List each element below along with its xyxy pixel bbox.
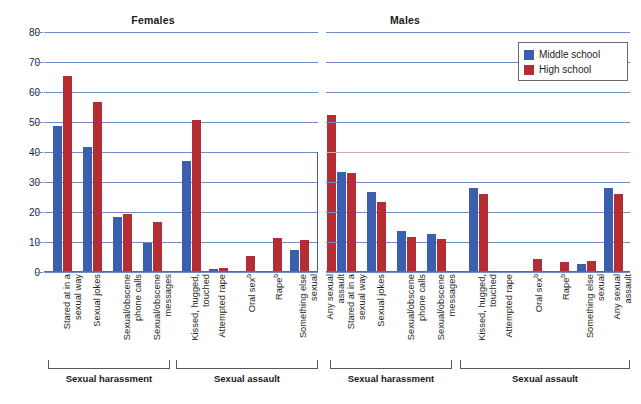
- bar-group: [112, 32, 142, 272]
- bar-group: [396, 32, 426, 272]
- category-label: Sexual jokes: [92, 274, 103, 358]
- category-label: Rapeb: [558, 274, 572, 358]
- bar-group: [208, 32, 235, 272]
- bar-high-school: [192, 120, 201, 272]
- legend-swatch-high-school: [524, 65, 534, 75]
- bar-high-school: [123, 214, 132, 272]
- y-axis-tick-mark: [36, 122, 43, 123]
- bar-group: [289, 32, 316, 272]
- x-axis-baseline: [44, 271, 318, 272]
- category-label: Oral sexb: [531, 274, 545, 358]
- category-label: Attempted rape: [217, 274, 228, 358]
- bar-middle-school: [604, 188, 613, 272]
- bar-group: [366, 32, 396, 272]
- legend-item-high-school: High school: [524, 62, 622, 77]
- y-axis-tick-mark: [36, 182, 43, 183]
- group-bracket: [330, 360, 452, 369]
- bar-group: [181, 32, 208, 272]
- panel-title-males: Males: [360, 14, 450, 26]
- y-axis-tick-mark: [36, 92, 43, 93]
- group-bracket-label: Sexual assault: [460, 373, 630, 384]
- plot-area-females: [44, 32, 318, 272]
- category-label: Sexual/obscenephone calls: [406, 274, 427, 358]
- category-label: Oral sexb: [244, 274, 258, 358]
- panel-separator: [318, 30, 326, 274]
- group-bracket: [460, 360, 630, 369]
- category-label: Something elsesexual: [585, 274, 606, 358]
- group-bracket: [48, 360, 170, 369]
- gridline-0: [44, 272, 318, 273]
- legend-label-middle-school: Middle school: [539, 49, 600, 60]
- bar-middle-school: [182, 161, 191, 272]
- bar-high-school: [63, 76, 72, 272]
- bar-high-school: [437, 239, 446, 272]
- bar-middle-school: [469, 188, 478, 272]
- bar-middle-school: [337, 172, 346, 273]
- y-axis-tick-mark: [36, 152, 43, 153]
- group-bracket-label: Sexual harassment: [48, 373, 170, 384]
- category-label: Sexual jokes: [376, 274, 387, 358]
- y-axis-tick-mark: [36, 242, 43, 243]
- category-label: Kissed, hugged,touched: [190, 274, 211, 358]
- y-axis-tick-mark: [36, 272, 43, 273]
- bar-high-school: [479, 194, 488, 272]
- gridline-0: [326, 272, 630, 273]
- x-axis-baseline: [326, 271, 630, 272]
- bar-middle-school: [367, 192, 376, 272]
- bar-middle-school: [427, 234, 436, 272]
- group-bracket-label: Sexual assault: [176, 373, 318, 384]
- bar-group: [336, 32, 366, 272]
- bar-group: [235, 32, 262, 272]
- bar-high-school: [377, 202, 386, 272]
- group-bracket-label: Sexual harassment: [330, 373, 452, 384]
- legend: Middle school High school: [518, 42, 628, 81]
- category-label: Any sexualassault: [612, 274, 633, 358]
- category-label: Rapeb: [271, 274, 285, 358]
- bar-group: [426, 32, 456, 272]
- category-labels-females: Stared at in asexual waySexual jokesSexu…: [44, 274, 318, 358]
- chart-figure: Females Males 01020304050607080 Stared a…: [0, 0, 641, 404]
- bar-high-school: [614, 194, 623, 272]
- y-axis-tick-mark: [36, 32, 43, 33]
- bar-high-school: [93, 102, 102, 272]
- bar-group: [52, 32, 82, 272]
- category-label: Something elsesexual: [298, 274, 319, 358]
- bar-middle-school: [143, 243, 152, 272]
- bar-group: [262, 32, 289, 272]
- legend-label-high-school: High school: [539, 64, 591, 75]
- category-label: Sexual/obscenephone calls: [122, 274, 143, 358]
- category-label: Sexual/obscenemessages: [152, 274, 173, 358]
- category-label: Kissed, hugged,touched: [477, 274, 498, 358]
- bars-females: [44, 32, 318, 272]
- bar-high-school: [300, 240, 309, 272]
- bar-middle-school: [290, 250, 299, 272]
- legend-swatch-middle-school: [524, 50, 534, 60]
- y-axis-tick-mark: [36, 212, 43, 213]
- bar-high-school: [153, 222, 162, 272]
- legend-item-middle-school: Middle school: [524, 47, 622, 62]
- bar-middle-school: [113, 217, 122, 272]
- bar-high-school: [407, 237, 416, 272]
- category-labels-males: Stared at in asexual waySexual jokesSexu…: [326, 274, 630, 358]
- category-label: Stared at in asexual way: [346, 274, 367, 358]
- bar-group: [142, 32, 172, 272]
- bar-middle-school: [83, 147, 92, 272]
- bar-high-school: [246, 256, 255, 273]
- bar-high-school: [347, 173, 356, 272]
- bar-group: [468, 32, 495, 272]
- bar-middle-school: [397, 231, 406, 272]
- bar-high-school: [273, 238, 282, 273]
- panel-title-females: Females: [108, 14, 198, 26]
- bar-group: [82, 32, 112, 272]
- group-bracket: [176, 360, 318, 369]
- category-label: Stared at in asexual way: [62, 274, 83, 358]
- category-label: Attempted rape: [504, 274, 515, 358]
- y-axis-tick-mark: [36, 62, 43, 63]
- category-label: Sexual/obscenemessages: [436, 274, 457, 358]
- bar-middle-school: [53, 126, 62, 272]
